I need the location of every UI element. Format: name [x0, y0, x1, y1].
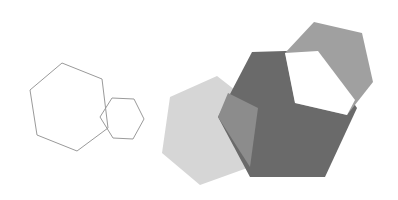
outline-hexagon-large [30, 63, 108, 151]
hexagon-diagram [0, 0, 398, 200]
